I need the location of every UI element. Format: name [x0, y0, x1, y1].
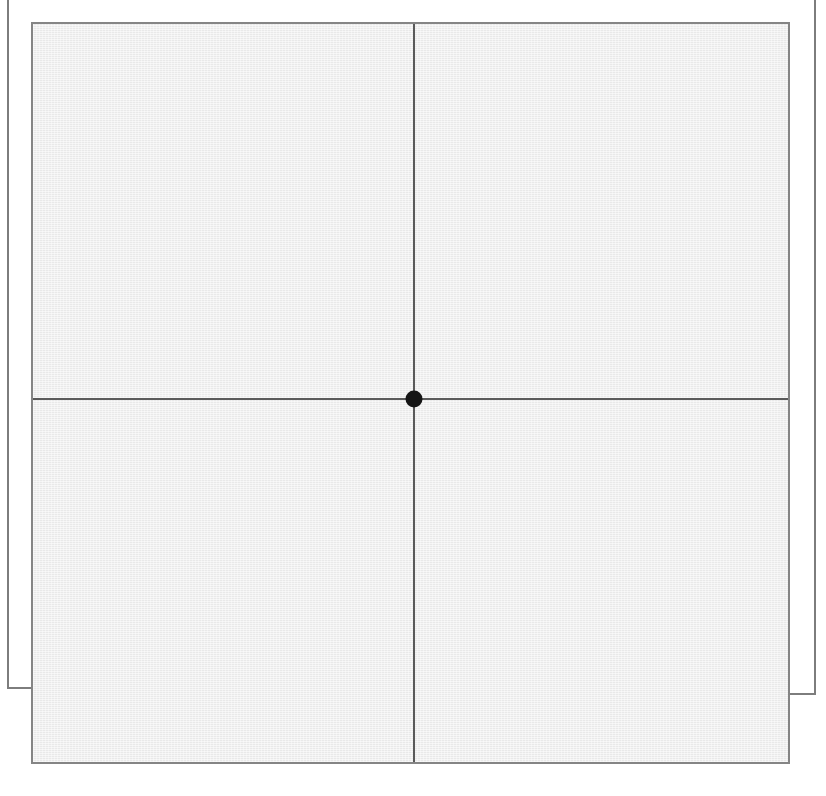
quadrant-top-left: [33, 24, 413, 398]
frame-left-foot: [7, 687, 33, 689]
quadrant-bottom-left: [33, 400, 413, 762]
quadrant-bottom-right: [415, 400, 788, 762]
figure-canvas: [0, 0, 826, 796]
frame-right-foot: [790, 693, 816, 695]
quadrant-panel: [31, 22, 790, 764]
quadrant-top-right: [415, 24, 788, 398]
plot-area: [33, 24, 788, 762]
frame-left-rail: [7, 0, 9, 689]
origin-point: [406, 391, 423, 408]
frame-right-rail: [814, 0, 816, 695]
